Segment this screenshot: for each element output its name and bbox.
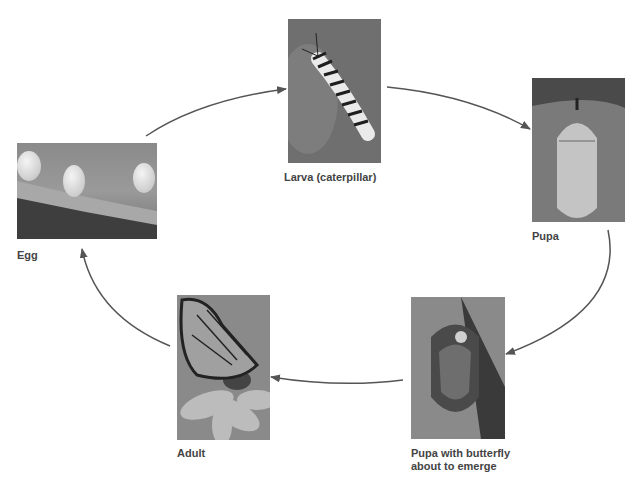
pupa-photo <box>532 78 625 222</box>
arrow-egg-to-larva <box>146 89 286 136</box>
adult-label: Adult <box>177 447 205 460</box>
larva-label: Larva (caterpillar) <box>284 171 376 184</box>
egg-label: Egg <box>17 249 38 262</box>
pupa-emerging-label-line2: about to emerge <box>411 460 510 473</box>
arrow-adult-to-egg <box>82 249 170 346</box>
pupa-emerging-photo <box>411 297 505 439</box>
pupa-emerging-label: Pupa with butterfly about to emerge <box>411 447 510 473</box>
arrow-larva-to-pupa <box>387 87 530 129</box>
adult-photo <box>177 295 270 440</box>
life-cycle-diagram: Egg Larva (caterpillar) Pupa <box>0 0 643 482</box>
egg-photo <box>17 143 157 239</box>
pupa-label: Pupa <box>532 230 559 243</box>
arrow-emerge-to-adult <box>271 377 403 383</box>
arrow-pupa-to-emerge <box>506 230 610 354</box>
larva-photo <box>288 19 381 163</box>
pupa-emerging-label-line1: Pupa with butterfly <box>411 447 510 460</box>
